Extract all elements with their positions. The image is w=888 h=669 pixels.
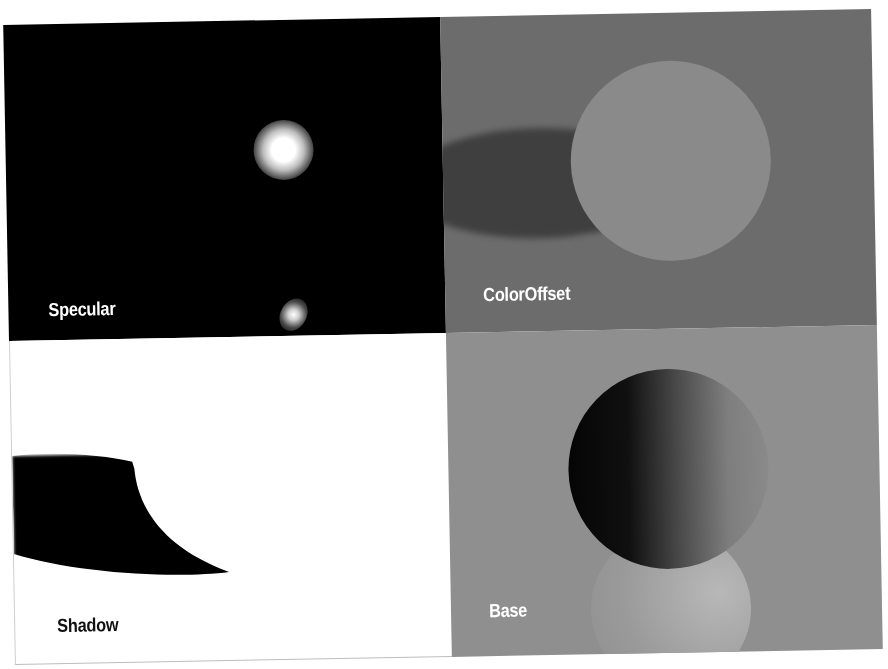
specular-label: Specular (48, 298, 115, 321)
specular-highlight-small (274, 294, 313, 336)
shadow-panel: Shadow (9, 333, 452, 665)
specular-highlight-large (253, 119, 314, 180)
render-pass-grid: Specular ColorOffset Shadow Base (3, 9, 883, 665)
shadow-label: Shadow (57, 614, 118, 637)
base-panel: Base (446, 325, 883, 657)
sphere (569, 59, 773, 263)
base-label: Base (489, 600, 527, 623)
color-offset-label: ColorOffset (483, 283, 570, 307)
color-offset-panel: ColorOffset (440, 9, 877, 333)
specular-panel: Specular (3, 17, 446, 341)
shaded-sphere (567, 367, 771, 571)
shadow-matte (12, 452, 229, 581)
